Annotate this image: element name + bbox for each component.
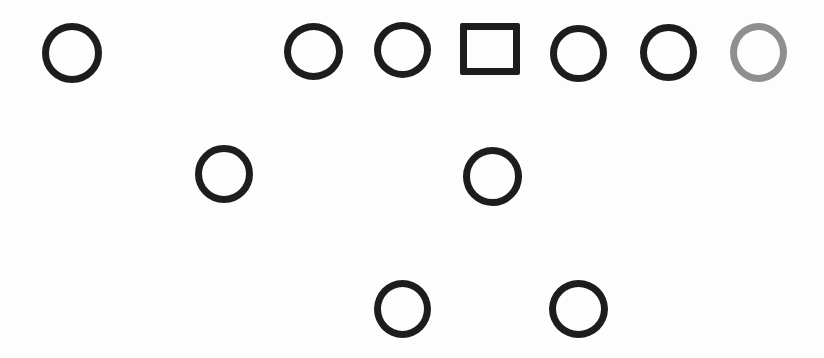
right-tackle-marker	[640, 24, 697, 81]
wide-receiver-left-marker	[42, 23, 102, 83]
center-square	[460, 23, 520, 75]
formation-diagram	[0, 0, 824, 358]
wing-back-left-marker	[195, 145, 253, 203]
right-guard-marker	[550, 25, 607, 82]
left-tackle-marker	[284, 23, 343, 80]
running-back-right-marker	[549, 280, 608, 338]
tight-end-right-gray-marker	[730, 23, 787, 82]
quarterback-marker	[463, 147, 522, 206]
running-back-left-marker	[374, 280, 431, 338]
left-guard-marker	[374, 22, 431, 78]
